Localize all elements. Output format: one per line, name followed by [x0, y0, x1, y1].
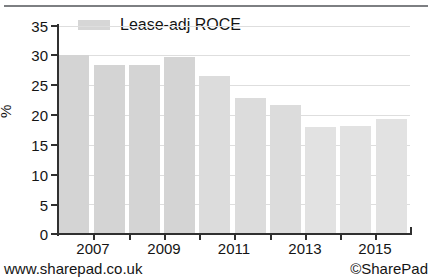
bar-2010: [199, 76, 230, 234]
gridline-35: [58, 26, 410, 27]
footer-website: www.sharepad.co.uk: [4, 261, 142, 277]
y-tick-label-30: 30: [8, 48, 48, 63]
bar-2006: [58, 55, 89, 234]
bar-2014: [340, 126, 371, 234]
bar-2008: [129, 65, 160, 234]
gridline-30: [58, 55, 410, 56]
x-axis-right-cap: [410, 227, 412, 235]
footer-copyright: ©SharePad: [350, 261, 428, 277]
x-tick-label-2013: 2013: [288, 241, 321, 257]
x-tick-mark-2009: [164, 233, 166, 240]
x-tick-mark-2007: [93, 233, 95, 240]
y-tick-label-20: 20: [8, 108, 48, 123]
x-tick-label-2007: 2007: [76, 241, 109, 257]
y-tick-label-35: 35: [8, 19, 48, 34]
x-tick-label-2009: 2009: [147, 241, 180, 257]
bar-2013: [305, 127, 336, 234]
y-tick-label-25: 25: [8, 78, 48, 93]
x-tick-mark-2015: [375, 233, 377, 240]
bar-2007: [94, 65, 125, 234]
top-divider: [4, 5, 428, 7]
x-tick-mark-2011: [234, 233, 236, 240]
y-tick-label-10: 10: [8, 168, 48, 183]
bar-2011: [235, 98, 266, 234]
bar-2009: [164, 57, 195, 234]
x-tick-mark-2012: [270, 233, 272, 240]
y-tick-label-5: 5: [8, 198, 48, 213]
bar-2015: [376, 119, 407, 234]
x-tick-label-2011: 2011: [218, 241, 250, 257]
x-tick-mark-2008: [129, 233, 131, 240]
y-axis-line: [57, 24, 59, 236]
x-tick-mark-2010: [199, 233, 201, 240]
bar-2012: [270, 105, 301, 234]
x-tick-label-2015: 2015: [358, 241, 391, 257]
y-tick-label-15: 15: [8, 138, 48, 153]
x-tick-mark-2013: [305, 233, 307, 240]
x-tick-mark-2014: [340, 233, 342, 240]
plot-area: [58, 26, 410, 234]
y-tick-label-0: 0: [8, 227, 48, 242]
chart-container: Lease-adj ROCE % 35 30 25 20 15 10 5 0: [0, 0, 432, 280]
